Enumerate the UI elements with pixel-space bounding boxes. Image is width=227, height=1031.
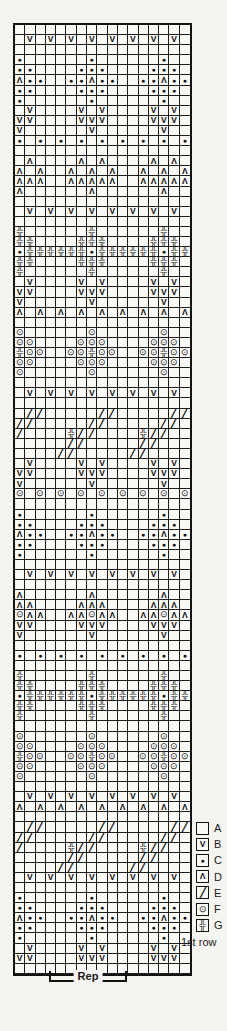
- grid-cell-symbol-G: ╬: [36, 691, 46, 701]
- grid-cell-symbol-E: ╱: [149, 853, 159, 863]
- grid-cell-empty: [169, 883, 179, 893]
- grid-cell-symbol-G: ╬: [169, 237, 179, 247]
- grid-cell-empty: [77, 398, 87, 408]
- grid-cell-symbol-C: ●: [97, 651, 107, 661]
- grid-cell-empty: [118, 338, 128, 348]
- grid-cell-symbol-C: ●: [66, 913, 76, 923]
- grid-cell-empty: [15, 398, 25, 408]
- grid-cell-symbol-G: ╬: [118, 691, 128, 701]
- grid-cell-empty: [97, 873, 107, 883]
- grid-cell-empty: [139, 146, 149, 156]
- grid-cell-symbol-E: ╱: [87, 843, 97, 853]
- grid-cell-empty: [77, 590, 87, 600]
- grid-cell-symbol-F: ⊙: [25, 348, 35, 358]
- grid-cell-empty: [128, 318, 138, 328]
- grid-cell-symbol-D: Λ: [87, 913, 97, 923]
- grid-cell-empty: [128, 267, 138, 277]
- grid-cell-symbol-G: ╬: [108, 691, 118, 701]
- grid-cell-empty: [180, 631, 190, 641]
- grid-cell-empty: [46, 217, 56, 227]
- grid-cell-symbol-B: V: [169, 459, 179, 469]
- grid-cell-empty: [36, 671, 46, 681]
- grid-cell-empty: [108, 479, 118, 489]
- grid-cell-empty: [149, 197, 159, 207]
- grid-cell-empty: [97, 126, 107, 136]
- grid-cell-empty: [149, 479, 159, 489]
- grid-cell-symbol-E: ╱: [97, 409, 107, 419]
- grid-cell-symbol-F: ⊙: [87, 610, 97, 620]
- grid-cell-empty: [66, 65, 76, 75]
- grid-cell-symbol-B: V: [159, 621, 169, 631]
- grid-cell-empty: [118, 570, 128, 580]
- grid-cell-symbol-G: ╬: [15, 671, 25, 681]
- grid-cell-symbol-C: ●: [97, 86, 107, 96]
- grid-cell-empty: [97, 267, 107, 277]
- grid-cell-empty: [128, 883, 138, 893]
- grid-cell-empty: [128, 409, 138, 419]
- grid-cell-empty: [97, 35, 107, 45]
- grid-cell-empty: [128, 610, 138, 620]
- grid-cell-symbol-C: ●: [180, 75, 190, 85]
- grid-cell-empty: [169, 510, 179, 520]
- grid-cell-empty: [139, 318, 149, 328]
- grid-cell-empty: [139, 631, 149, 641]
- grid-cell-symbol-E: ╱: [139, 439, 149, 449]
- grid-cell-symbol-B: V: [77, 287, 87, 297]
- grid-cell-empty: [25, 893, 35, 903]
- grid-cell-empty: [77, 187, 87, 197]
- grid-cell-symbol-E: ╱: [56, 449, 66, 459]
- grid-cell-empty: [36, 116, 46, 126]
- grid-cell-empty: [128, 893, 138, 903]
- grid-cell-symbol-E: ╱: [77, 439, 87, 449]
- grid-cell-empty: [108, 863, 118, 873]
- grid-cell-empty: [15, 449, 25, 459]
- grid-cell-empty: [108, 812, 118, 822]
- grid-cell-empty: [169, 308, 179, 318]
- grid-cell-empty: [87, 721, 97, 731]
- grid-cell-empty: [128, 217, 138, 227]
- grid-cell-empty: [169, 580, 179, 590]
- grid-cell-empty: [118, 530, 128, 540]
- grid-cell-symbol-D: Λ: [97, 156, 107, 166]
- grid-cell-empty: [56, 439, 66, 449]
- grid-cell-symbol-C: ●: [159, 923, 169, 933]
- grid-cell-empty: [77, 631, 87, 641]
- grid-cell-empty: [77, 580, 87, 590]
- grid-cell-empty: [87, 812, 97, 822]
- grid-cell-symbol-E: ╱: [97, 833, 107, 843]
- grid-cell-empty: [180, 762, 190, 772]
- grid-cell-symbol-B: V: [87, 479, 97, 489]
- grid-cell-empty: [77, 207, 87, 217]
- grid-cell-symbol-G: ╬: [77, 237, 87, 247]
- grid-cell-empty: [149, 964, 159, 974]
- grid-cell-empty: [169, 187, 179, 197]
- grid-cell-empty: [46, 328, 56, 338]
- grid-cell-empty: [169, 55, 179, 65]
- grid-cell-symbol-F: ⊙: [180, 752, 190, 762]
- grid-cell-symbol-D: Λ: [77, 176, 87, 186]
- grid-cell-symbol-B: V: [46, 35, 56, 45]
- grid-cell-empty: [149, 126, 159, 136]
- grid-cell-symbol-F: ⊙: [159, 772, 169, 782]
- grid-cell-symbol-F: ⊙: [159, 489, 169, 499]
- grid-cell-empty: [139, 378, 149, 388]
- grid-cell-empty: [180, 721, 190, 731]
- grid-cell-symbol-B: V: [159, 631, 169, 641]
- grid-cell-empty: [139, 257, 149, 267]
- grid-cell-empty: [149, 217, 159, 227]
- grid-cell-empty: [87, 641, 97, 651]
- grid-cell-empty: [139, 732, 149, 742]
- grid-cell-empty: [66, 358, 76, 368]
- grid-cell-empty: [15, 822, 25, 832]
- grid-cell-symbol-D: Λ: [87, 166, 97, 176]
- grid-cell-empty: [128, 378, 138, 388]
- grid-cell-empty: [108, 944, 118, 954]
- grid-cell-empty: [118, 752, 128, 762]
- grid-cell-empty: [36, 833, 46, 843]
- grid-cell-empty: [46, 237, 56, 247]
- grid-cell-empty: [118, 853, 128, 863]
- grid-cell-empty: [46, 277, 56, 287]
- grid-cell-symbol-D: Λ: [180, 176, 190, 186]
- grid-cell-symbol-F: ⊙: [180, 489, 190, 499]
- grid-cell-empty: [159, 197, 169, 207]
